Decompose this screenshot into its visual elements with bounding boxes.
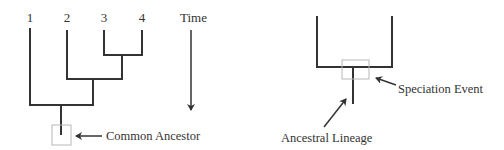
common-ancestor-label: Common Ancestor bbox=[106, 129, 201, 143]
taxon-label-2: 2 bbox=[64, 10, 71, 25]
ancestral-lineage-label: Ancestral Lineage bbox=[281, 131, 373, 145]
speciation-event-label: Speciation Event bbox=[398, 82, 484, 96]
taxon-label-1: 1 bbox=[27, 10, 34, 25]
speciation-event-box bbox=[342, 60, 369, 79]
phylogeny-figure: 1 2 3 4 Time Common Ancestor Speciation … bbox=[0, 0, 504, 150]
cladogram bbox=[29, 28, 143, 135]
taxon-label-4: 4 bbox=[139, 10, 146, 25]
taxon-label-3: 3 bbox=[101, 10, 108, 25]
time-label: Time bbox=[180, 10, 207, 25]
speciation-arrow-icon bbox=[376, 78, 396, 85]
ancestral-lineage-arrow-icon bbox=[324, 99, 346, 127]
